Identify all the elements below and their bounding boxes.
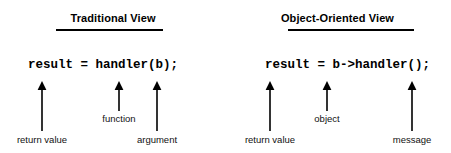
arrow-argument-traditional	[151, 81, 163, 131]
code-expression-traditional: result = handler(b);	[28, 58, 178, 72]
panel-title-traditional: Traditional View	[0, 12, 226, 24]
arrow-message-object-oriented	[406, 81, 418, 131]
panel-object-oriented: Object-Oriented View result = b->handler…	[226, 0, 451, 153]
annotation-label-message-object-oriented: message	[393, 134, 432, 145]
code-expression-object-oriented: result = b->handler();	[265, 58, 430, 72]
arrow-object-object-oriented	[321, 81, 333, 111]
arrow-return-value-traditional	[36, 81, 48, 131]
panel-title-object-oriented: Object-Oriented View	[225, 12, 450, 24]
arrow-return-value-object-oriented	[264, 81, 276, 131]
annotation-label-object-object-oriented: object	[314, 113, 339, 124]
annotation-label-return-value-object-oriented: return value	[245, 134, 295, 145]
diagram-canvas: Traditional View result = handler(b); re…	[0, 0, 451, 153]
annotation-label-argument-traditional: argument	[137, 134, 177, 145]
title-underline-traditional	[56, 29, 163, 31]
annotation-label-function-traditional: function	[102, 113, 135, 124]
arrow-function-traditional	[113, 81, 125, 111]
panel-traditional: Traditional View result = handler(b); re…	[0, 0, 226, 153]
annotation-label-return-value-traditional: return value	[17, 134, 67, 145]
title-underline-object-oriented	[288, 29, 414, 31]
